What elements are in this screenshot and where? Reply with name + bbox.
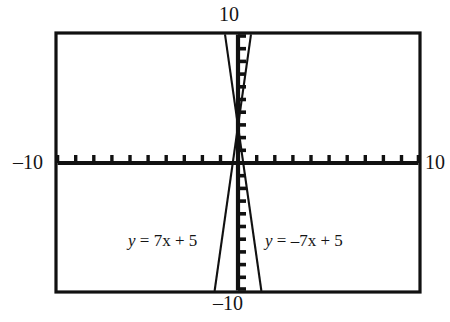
y-axis-max-label: 10	[219, 4, 239, 24]
equation-label-left: y = 7x + 5	[128, 232, 197, 249]
equation-label-right: y = –7x + 5	[265, 232, 343, 249]
y-axis-min-label: –10	[213, 293, 243, 313]
x-axis-min-label: –10	[13, 152, 43, 172]
graph-figure	[0, 0, 450, 322]
x-axis-max-label: 10	[425, 152, 445, 172]
